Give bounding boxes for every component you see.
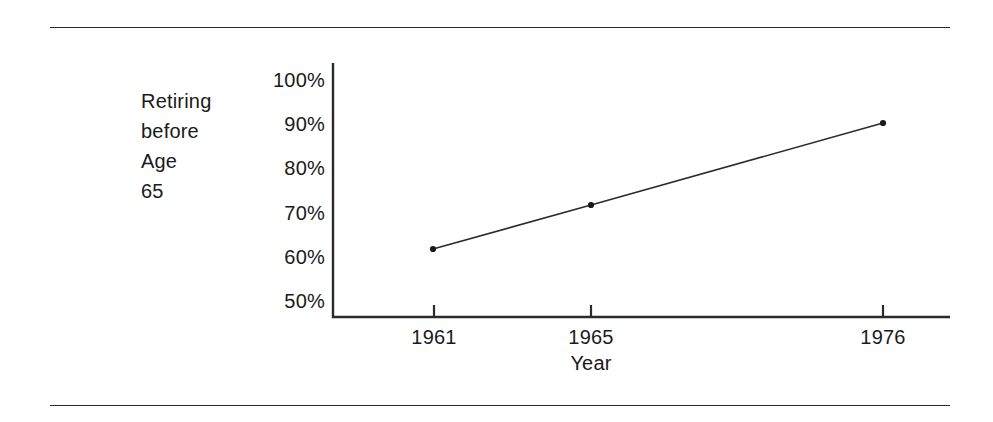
x-tick-label: 1961 — [374, 326, 494, 348]
chart-figure: Retiring before Age 65 100% 90% 80% 70% … — [0, 0, 993, 422]
x-tick-label: 1976 — [823, 326, 943, 348]
x-axis-tick-labels: 1961 1965 1976 — [0, 0, 993, 422]
x-axis-label: Year — [531, 352, 651, 374]
x-tick-label: 1965 — [531, 326, 651, 348]
